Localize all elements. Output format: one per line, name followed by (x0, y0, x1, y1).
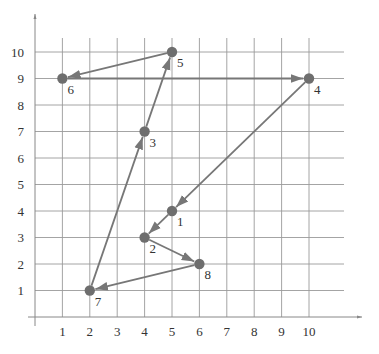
point-label: 6 (67, 82, 74, 97)
arrow-path-chart: 1234567891012345678910 12345678 (0, 0, 379, 354)
x-tick-label: 9 (278, 324, 285, 339)
point-label: 8 (204, 267, 211, 282)
path-arrows (68, 53, 306, 289)
tick-labels: 1234567891012345678910 (11, 45, 316, 340)
y-tick-label: 10 (11, 45, 24, 60)
x-tick-label: 10 (303, 324, 316, 339)
y-tick-label: 1 (18, 283, 25, 298)
x-tick-label: 6 (196, 324, 203, 339)
point-3 (139, 126, 149, 136)
grid-lines (35, 38, 344, 317)
y-tick-label: 5 (18, 177, 25, 192)
point-label: 3 (150, 135, 157, 150)
arrow-1-to-2 (149, 215, 169, 234)
point-4 (304, 73, 314, 83)
y-tick-label: 3 (18, 230, 25, 245)
y-tick-label: 4 (18, 204, 25, 219)
x-tick-label: 8 (251, 324, 258, 339)
point-5 (167, 47, 177, 57)
y-tick-label: 8 (18, 98, 25, 113)
point-2 (139, 232, 149, 242)
point-6 (57, 73, 67, 83)
x-tick-label: 1 (59, 324, 66, 339)
arrow-4-to-1 (176, 82, 305, 207)
point-7 (85, 285, 95, 295)
x-tick-label: 4 (141, 324, 148, 339)
point-1 (167, 206, 177, 216)
y-tick-label: 2 (18, 257, 25, 272)
point-label: 2 (150, 241, 157, 256)
x-tick-label: 2 (87, 324, 94, 339)
point-label: 4 (314, 82, 321, 97)
axes (28, 14, 362, 326)
x-tick-label: 7 (224, 324, 231, 339)
point-8 (194, 259, 204, 269)
y-tick-label: 6 (18, 151, 25, 166)
x-tick-label: 5 (169, 324, 176, 339)
y-tick-label: 9 (18, 71, 25, 86)
x-tick-label: 3 (114, 324, 121, 339)
y-tick-label: 7 (18, 124, 25, 139)
point-label: 5 (177, 55, 184, 70)
arrow-3-to-5 (146, 57, 170, 126)
point-label: 1 (177, 214, 184, 229)
point-label: 7 (95, 294, 102, 309)
